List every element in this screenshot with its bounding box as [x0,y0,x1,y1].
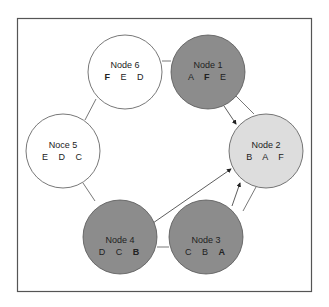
node-2-key-2: A [262,152,270,162]
node-5-label: Noce 5 [49,140,78,150]
node-2-circle [229,114,303,188]
node-2: Node 2 B A F [229,114,303,188]
node-6-key-1: F [104,72,112,82]
node-4: Node 4 D C B [83,200,157,274]
edge-node1-node2-line [236,96,254,114]
node-1-key-2: F [204,72,212,82]
node-1-key-1: A [188,72,196,82]
arrow-node1-to-node2 [224,106,236,124]
node-3-key-2: B [202,247,210,257]
node-1: Node 1 A F E [171,35,245,109]
node-5-key-3: C [76,152,85,162]
node-5-keys: E D C [42,152,84,162]
node-2-key-1: B [246,152,254,162]
node-6-key-2: E [120,72,128,82]
node-5: Noce 5 E D C [26,114,100,188]
node-4-keys: D C B [99,247,142,257]
node-4-key-1: D [99,247,108,257]
node-1-key-3: E [220,72,228,82]
node-6: Node 6 F E D [88,35,162,109]
node-3-key-3: A [219,247,228,257]
edge-node6-node5 [85,99,96,120]
node-3-key-1: C [185,247,194,257]
node-2-label: Node 2 [251,140,280,150]
node-5-key-2: D [59,152,68,162]
node-2-key-3: F [278,152,286,162]
node-3: Node 3 C B A [169,200,243,274]
node-3-keys: C B A [185,247,227,257]
node-4-key-3: B [133,247,142,257]
node-6-keys: F E D [104,72,145,82]
node-3-label: Node 3 [191,235,220,245]
arrow-node3-to-node2 [232,183,240,206]
node-6-key-3: D [137,72,146,82]
node-1-label: Node 1 [193,60,222,70]
ring-network-diagram: Node 6 F E D Node 1 A F E Noce 5 E D C N… [0,0,329,307]
node-6-label: Node 6 [110,60,139,70]
node-1-keys: A F E [188,72,228,82]
node-5-key-1: E [42,152,50,162]
node-2-keys: B A F [246,152,286,162]
edge-node5-node4 [83,183,95,201]
node-5-circle [26,114,100,188]
edge-node3-node2-line [243,187,256,211]
node-4-label: Node 4 [105,235,134,245]
node-4-key-2: C [116,247,125,257]
